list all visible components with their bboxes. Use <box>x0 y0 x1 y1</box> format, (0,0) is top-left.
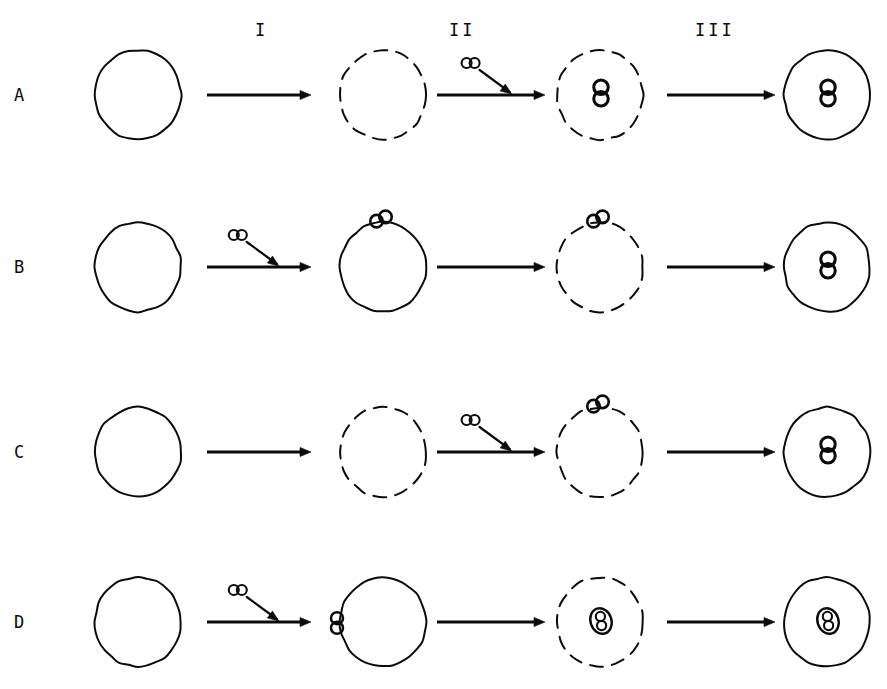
internal-pair-A-2 <box>594 80 609 106</box>
arrow-A-III <box>667 90 775 99</box>
attached-pair-left-D-1 <box>331 612 343 634</box>
arrow-A-I <box>207 90 311 99</box>
incoming-pair-B-I <box>247 242 279 266</box>
arrow-head <box>300 90 311 99</box>
cell-outline-dashed-B-2 <box>557 223 643 313</box>
arrow-head <box>300 617 311 626</box>
stage-label-ii: II <box>449 20 475 40</box>
arrow-head <box>534 90 545 99</box>
pair-lobe-2 <box>597 621 606 630</box>
cell-outline-solid-D-1 <box>340 577 427 666</box>
attached-pair-top-B-1 <box>370 211 392 228</box>
arrow-B-I <box>207 262 311 271</box>
arrow-head <box>534 617 545 626</box>
pathway-diagram: IIIIIIABCD <box>0 0 887 689</box>
arrow-C-III <box>667 447 775 456</box>
arrow-C-II <box>437 447 545 456</box>
internal-pair-C-3 <box>821 437 836 463</box>
arrow-head <box>534 447 545 456</box>
arrow-head <box>300 262 311 271</box>
cell-outline-solid-C-0 <box>95 407 181 497</box>
arrow-head <box>300 447 311 456</box>
arrow-D-I <box>207 617 311 626</box>
attached-pair-top-B-2 <box>587 211 609 228</box>
cell-outline-solid-D-0 <box>94 577 180 667</box>
incoming-pair-C-II <box>480 427 512 451</box>
arrow-D-III <box>667 617 775 626</box>
row-label-d: D <box>14 612 24 632</box>
internal-encapsulated-pair-D-3 <box>814 605 842 636</box>
row-label-a: A <box>14 85 24 105</box>
cell-outline-solid-B-0 <box>94 222 180 312</box>
cell-outline-dashed-C-1 <box>340 407 426 498</box>
row-label-b: B <box>14 257 24 277</box>
free-pair-A-II <box>462 58 480 68</box>
free-pair-B-I <box>229 230 247 240</box>
internal-encapsulated-pair-D-2 <box>587 605 615 636</box>
arrow-B-III <box>667 262 775 271</box>
pair-lobe-1 <box>823 612 832 621</box>
arrow-A-II <box>437 90 545 99</box>
stage-label-iii: III <box>695 20 735 40</box>
arrow-head <box>534 262 545 271</box>
cell-outline-dashed-A-1 <box>340 50 426 140</box>
arrow-head <box>764 90 775 99</box>
pair-lobe-1 <box>596 612 605 621</box>
arrow-head <box>764 617 775 626</box>
incoming-pair-A-II <box>480 70 512 94</box>
arrow-B-II <box>437 262 545 271</box>
free-pair-D-I <box>229 585 247 595</box>
arrow-C-I <box>207 447 311 456</box>
incoming-pair-D-I <box>247 597 279 621</box>
pair-lobe-2 <box>824 621 833 630</box>
arrow-head <box>764 262 775 271</box>
internal-pair-A-3 <box>821 80 836 106</box>
cell-outline-dashed-C-2 <box>556 408 642 497</box>
arrow-head <box>764 447 775 456</box>
free-pair-C-II <box>462 415 480 425</box>
arrow-D-II <box>437 617 545 626</box>
cell-outline-solid-B-1 <box>340 221 427 311</box>
cell-outline-solid-A-0 <box>95 50 182 139</box>
row-label-c: C <box>14 442 24 462</box>
diagram-canvas <box>0 0 887 689</box>
stage-label-i: I <box>255 20 268 40</box>
internal-pair-B-3 <box>821 252 836 278</box>
